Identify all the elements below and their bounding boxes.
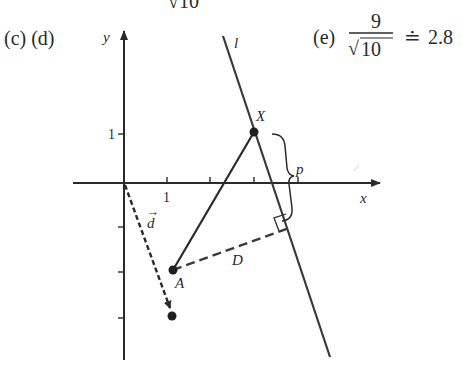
brace-p-label: p xyxy=(295,161,304,177)
top-fragment: √10 xyxy=(168,0,199,12)
sqrt-symbol: √ xyxy=(348,37,359,59)
segment-ax xyxy=(173,132,254,270)
x-axis-label: x xyxy=(359,190,367,206)
point-a xyxy=(169,266,178,275)
y-tick-label-1: 1 xyxy=(108,127,115,142)
vector-d-arrow-glyph: → xyxy=(146,204,159,219)
part-e-formula: (e) 9 √ 10 ≐ 2.8 xyxy=(313,10,453,60)
part-cd-label: (c) (d) xyxy=(4,27,55,50)
fraction-denominator: 10 xyxy=(361,38,381,60)
point-d-tip xyxy=(168,312,177,321)
approx-sign: ≐ xyxy=(404,26,421,48)
approx-value: 2.8 xyxy=(428,26,453,48)
line-l xyxy=(223,36,330,357)
part-e-label: (e) xyxy=(313,26,335,49)
brace-p xyxy=(272,134,294,221)
distance-d-label: D xyxy=(231,252,243,268)
geometry-diagram: √10 (c) (d) (e) 9 √ 10 ≐ 2.8 y x 1 1 l d… xyxy=(0,0,462,365)
y-axis-label: y xyxy=(101,29,110,45)
top-fragment-text: √10 xyxy=(168,0,199,12)
x-tick-label-1: 1 xyxy=(163,190,170,205)
point-x-label: X xyxy=(255,108,266,124)
coordinate-axes xyxy=(73,31,380,360)
line-l-label: l xyxy=(234,35,238,51)
point-x xyxy=(250,128,259,137)
distance-d-segment xyxy=(173,228,289,270)
fraction-numerator: 9 xyxy=(371,10,381,32)
point-a-label: A xyxy=(174,275,185,291)
faint-mark xyxy=(354,165,359,171)
axis-ticks xyxy=(118,134,298,318)
